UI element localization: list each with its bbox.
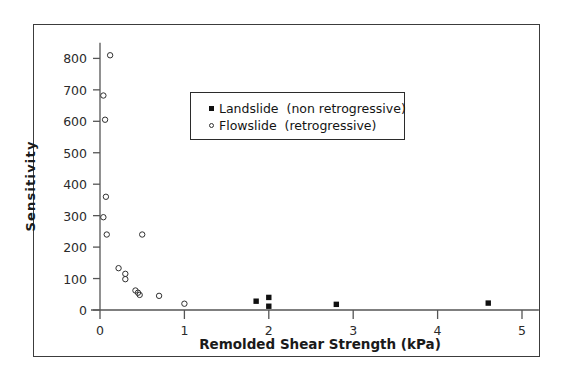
data-point-flowslide xyxy=(182,301,187,306)
x-tick-label: 1 xyxy=(180,323,188,338)
chart-legend: Landslide (non retrogressive) Flowslide … xyxy=(190,92,405,140)
data-point-flowslide xyxy=(104,232,109,237)
y-axis-title: Sensitivity xyxy=(23,140,38,231)
figure-container: 0100200300400500600700800 012345 Sensiti… xyxy=(0,0,564,376)
data-point-landslide xyxy=(486,300,491,305)
data-point-flowslide xyxy=(123,271,128,276)
data-point-flowslide xyxy=(103,194,108,199)
y-tick-label: 300 xyxy=(47,208,87,223)
data-point-flowslide xyxy=(140,232,145,237)
y-tick-label: 500 xyxy=(47,145,87,160)
data-point-flowslide xyxy=(107,53,112,58)
legend-label-landslide: Landslide (non retrogressive) xyxy=(219,101,406,116)
data-point-flowslide xyxy=(123,276,128,281)
legend-marker-filled-square-icon xyxy=(203,106,219,111)
y-tick-label: 400 xyxy=(47,177,87,192)
data-point-flowslide xyxy=(101,215,106,220)
data-point-flowslide xyxy=(101,93,106,98)
data-point-landslide xyxy=(253,298,258,303)
legend-item-flowslide: Flowslide (retrogressive) xyxy=(203,117,376,133)
y-tick-label: 600 xyxy=(47,114,87,129)
x-tick-label: 0 xyxy=(96,323,104,338)
data-point-landslide xyxy=(266,295,271,300)
data-point-flowslide xyxy=(102,117,107,122)
y-tick-label: 200 xyxy=(47,240,87,255)
data-point-landslide xyxy=(266,304,271,309)
x-tick-label: 5 xyxy=(518,323,526,338)
data-point-flowslide xyxy=(156,293,161,298)
y-tick-label: 100 xyxy=(47,271,87,286)
legend-marker-open-circle-icon xyxy=(203,123,219,128)
y-tick-label: 800 xyxy=(47,51,87,66)
legend-item-landslide: Landslide (non retrogressive) xyxy=(203,100,406,116)
y-tick-label: 0 xyxy=(47,303,87,318)
x-axis-title: Remolded Shear Strength (kPa) xyxy=(199,336,441,352)
y-tick-label: 700 xyxy=(47,82,87,97)
data-points xyxy=(101,53,491,309)
legend-label-flowslide: Flowslide (retrogressive) xyxy=(219,118,376,133)
data-point-flowslide xyxy=(116,265,121,270)
axes-lines xyxy=(91,43,539,310)
data-point-landslide xyxy=(334,302,339,307)
